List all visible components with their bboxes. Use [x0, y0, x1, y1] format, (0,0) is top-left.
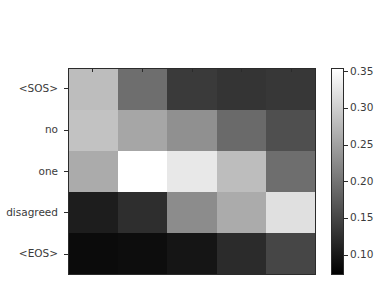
- x-tick-mark: [142, 68, 143, 72]
- heatmap-cell: [69, 151, 118, 192]
- colorbar-tick-label: 0.25: [350, 139, 373, 150]
- y-tick-mark: [64, 212, 68, 213]
- heatmap-cell: [217, 192, 266, 233]
- heatmap-cell: [69, 69, 118, 110]
- heatmap-plot-area: [68, 68, 316, 275]
- x-tick-mark: [291, 68, 292, 72]
- colorbar-tick-label: 0.10: [350, 249, 373, 260]
- y-tick-mark: [64, 130, 68, 131]
- x-tick-mark: [241, 68, 242, 72]
- heatmap-cell: [167, 69, 216, 110]
- heatmap-cell: [266, 69, 315, 110]
- heatmap-cell: [69, 110, 118, 151]
- heatmap-cell: [217, 151, 266, 192]
- x-tick-mark: [192, 68, 193, 72]
- heatmap-cell: [217, 110, 266, 151]
- heatmap-cell-grid: [69, 69, 315, 274]
- heatmap-cell: [266, 110, 315, 151]
- colorbar-tick-mark: [344, 181, 348, 182]
- heatmap-cell: [118, 233, 167, 274]
- colorbar-tick-mark: [344, 218, 348, 219]
- heatmap-cell: [266, 192, 315, 233]
- colorbar: [331, 68, 344, 275]
- heatmap-cell: [167, 151, 216, 192]
- x-tick-mark: [92, 68, 93, 72]
- colorbar-tick-mark: [344, 145, 348, 146]
- heatmap-cell: [69, 233, 118, 274]
- y-tick-label: disagreed: [0, 207, 58, 218]
- colorbar-tick-label: 0.15: [350, 212, 373, 223]
- colorbar-tick-label: 0.20: [350, 176, 373, 187]
- colorbar-tick-label: 0.35: [350, 66, 373, 77]
- y-tick-label: <EOS>: [0, 248, 58, 259]
- heatmap-cell: [217, 233, 266, 274]
- heatmap-cell: [118, 69, 167, 110]
- y-tick-label: one: [0, 166, 58, 177]
- colorbar-tick-mark: [344, 71, 348, 72]
- y-tick-mark: [64, 171, 68, 172]
- heatmap-cell: [167, 233, 216, 274]
- y-tick-mark: [64, 254, 68, 255]
- y-tick-mark: [64, 88, 68, 89]
- heatmap-cell: [167, 110, 216, 151]
- colorbar-tick-label: 0.30: [350, 102, 373, 113]
- heatmap-cell: [266, 233, 315, 274]
- heatmap-cell: [118, 110, 167, 151]
- heatmap-cell: [217, 69, 266, 110]
- heatmap-cell: [266, 151, 315, 192]
- attention-heatmap-figure: personnen'exprimadedésaccord<EOS> <SOS>n…: [0, 0, 376, 291]
- heatmap-cell: [118, 151, 167, 192]
- y-tick-label: <SOS>: [0, 83, 58, 94]
- colorbar-tick-mark: [344, 108, 348, 109]
- colorbar-gradient: [332, 69, 343, 274]
- heatmap-cell: [118, 192, 167, 233]
- y-tick-label: no: [0, 124, 58, 135]
- heatmap-cell: [69, 192, 118, 233]
- heatmap-cell: [167, 192, 216, 233]
- colorbar-tick-mark: [344, 255, 348, 256]
